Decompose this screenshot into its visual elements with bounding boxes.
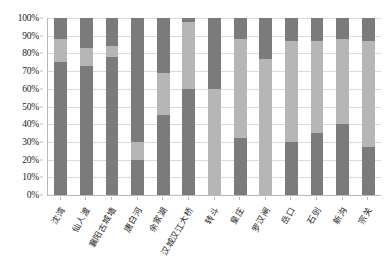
bar-segment[interactable] (157, 18, 170, 73)
bar-segment[interactable] (106, 46, 119, 57)
bar-segment[interactable] (106, 57, 119, 195)
y-tick-mark (40, 18, 43, 19)
x-tick-mark (239, 197, 240, 200)
bar-group[interactable] (131, 18, 144, 195)
y-tick-label: 30% (22, 137, 39, 147)
bar-segment[interactable] (182, 22, 195, 89)
bar-group[interactable] (80, 18, 93, 195)
bar-segment[interactable] (259, 59, 272, 195)
bar-segment[interactable] (336, 39, 349, 124)
bar-stack (336, 18, 349, 195)
bar-segment[interactable] (285, 18, 298, 41)
bar-segment[interactable] (311, 18, 324, 41)
bar-group[interactable] (311, 18, 324, 195)
x-tick-mark (137, 197, 138, 200)
bar-segment[interactable] (285, 41, 298, 142)
bar-stack (54, 18, 67, 195)
bar-segment[interactable] (80, 18, 93, 48)
bar-group[interactable] (157, 18, 170, 195)
x-tick-label: 新沟 (332, 206, 349, 226)
x-tick-mark (316, 197, 317, 200)
x-tick-label: 皇庄 (229, 206, 246, 226)
bar-segment[interactable] (311, 41, 324, 133)
y-tick-mark (40, 177, 43, 178)
x-tick-mark (367, 197, 368, 200)
bar-group[interactable] (54, 18, 67, 195)
y-tick-mark (40, 195, 43, 196)
y-tick-label: 40% (22, 119, 39, 129)
bar-segment[interactable] (336, 124, 349, 195)
bar-segment[interactable] (54, 39, 67, 62)
y-tick-mark (40, 71, 43, 72)
y-tick-mark (40, 53, 43, 54)
x-tick-mark (60, 197, 61, 200)
bar-segment[interactable] (208, 18, 221, 89)
bar-segment[interactable] (182, 18, 195, 22)
x-tick-label: 岳口 (280, 206, 297, 226)
x-tick-mark (85, 197, 86, 200)
bar-segment[interactable] (131, 160, 144, 195)
bar-segment[interactable] (131, 142, 144, 160)
bar-stack (311, 18, 324, 195)
bar-stack (285, 18, 298, 195)
bar-stack (234, 18, 247, 195)
x-tick-label: 宗关 (357, 206, 374, 226)
bar-segment[interactable] (106, 18, 119, 46)
bar-segment[interactable] (80, 48, 93, 66)
bar-stack (362, 18, 375, 195)
bar-stack (157, 18, 170, 195)
bar-group[interactable] (285, 18, 298, 195)
bar-group[interactable] (182, 18, 195, 195)
x-axis: 沈湾仙人渡襄阳古城墙唐白河余家湖汉城汉江大桥转斗皇庄罗汉闸岳口石剅新沟宗关 (47, 197, 381, 270)
bar-segment[interactable] (311, 133, 324, 195)
bar-segment[interactable] (362, 41, 375, 147)
bar-segment[interactable] (285, 142, 298, 195)
bar-segment[interactable] (362, 18, 375, 41)
y-tick-label: 20% (22, 155, 39, 165)
x-tick-label: 沈湾 (50, 206, 67, 226)
bar-stack (106, 18, 119, 195)
bar-segment[interactable] (208, 89, 221, 195)
bar-segment[interactable] (336, 18, 349, 39)
bar-group[interactable] (336, 18, 349, 195)
bars-layer (48, 18, 381, 195)
x-tick-label: 石剅 (306, 206, 323, 226)
bar-segment[interactable] (157, 115, 170, 195)
y-tick-mark (40, 106, 43, 107)
bar-group[interactable] (362, 18, 375, 195)
bar-segment[interactable] (80, 66, 93, 195)
bar-group[interactable] (234, 18, 247, 195)
y-tick-label: 0% (27, 190, 39, 200)
gridline (48, 195, 381, 196)
bar-segment[interactable] (234, 39, 247, 138)
bar-segment[interactable] (54, 18, 67, 39)
bar-segment[interactable] (182, 89, 195, 195)
bar-group[interactable] (208, 18, 221, 195)
x-tick-mark (265, 197, 266, 200)
bar-segment[interactable] (234, 138, 247, 195)
y-axis: 0%10%20%30%40%50%60%70%80%90%100% (0, 18, 43, 196)
x-tick-label: 转斗 (204, 206, 221, 226)
bar-segment[interactable] (259, 18, 272, 59)
y-tick-label: 70% (22, 66, 39, 76)
bar-stack (80, 18, 93, 195)
x-tick-mark (111, 197, 112, 200)
y-tick-label: 60% (22, 84, 39, 94)
bar-stack (131, 18, 144, 195)
y-tick-mark (40, 159, 43, 160)
bar-stack (182, 18, 195, 195)
bar-segment[interactable] (234, 18, 247, 39)
bar-group[interactable] (259, 18, 272, 195)
x-tick-mark (162, 197, 163, 200)
bar-segment[interactable] (131, 18, 144, 142)
bar-segment[interactable] (157, 73, 170, 115)
x-tick-label: 余家湖 (148, 206, 169, 234)
y-tick-mark (40, 88, 43, 89)
bar-segment[interactable] (362, 147, 375, 195)
y-tick-label: 100% (18, 13, 39, 23)
bar-segment[interactable] (54, 62, 67, 195)
plot-area (47, 18, 381, 196)
x-tick-label: 罗汉闸 (250, 206, 271, 234)
y-tick-label: 10% (22, 172, 39, 182)
bar-group[interactable] (106, 18, 119, 195)
